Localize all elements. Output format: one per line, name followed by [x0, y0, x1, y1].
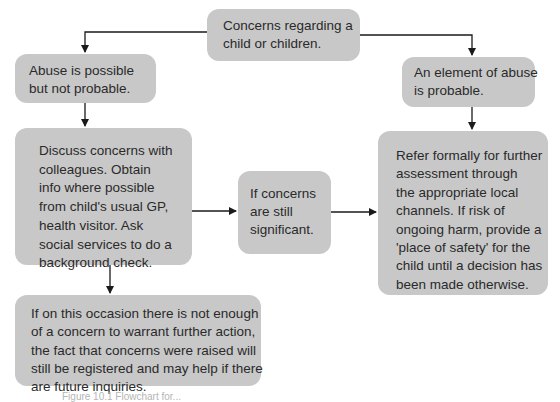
node-text-line: is probable. — [414, 82, 535, 100]
node-text-line: An element of abuse — [414, 64, 535, 82]
node-still-significant: If concerns are still significant. — [238, 171, 331, 254]
node-text-line: Abuse is possible — [29, 62, 156, 80]
node-not-enough-concern: If on this occasion there is not enough … — [15, 295, 261, 386]
node-text-line: the fact that concerns were raised will — [31, 342, 261, 360]
node-text-line: background check. — [39, 254, 192, 273]
node-text-line: child until a decision has — [396, 257, 548, 275]
node-text-line: Refer formally for further — [396, 147, 548, 165]
node-text-line: the appropriate local — [396, 184, 548, 202]
arrow-start-to-possible — [85, 32, 207, 52]
node-text-line: 'place of safety' for the — [396, 239, 548, 257]
node-text-line: info where possible — [39, 179, 192, 198]
node-text-line: but not probable. — [29, 80, 156, 98]
node-text-line: significant. — [250, 221, 331, 239]
node-text-line: ongoing harm, provide a — [396, 221, 548, 239]
node-refer-formally: Refer formally for further assessment th… — [378, 131, 548, 295]
node-text-line: social services to do a — [39, 236, 192, 255]
node-text-line: If on this occasion there is not enough — [31, 305, 261, 323]
node-text-line: If concerns — [250, 185, 331, 203]
figure-caption: Figure 10.1 Flowchart for... — [62, 391, 181, 402]
node-text-line: health visitor. Ask — [39, 217, 192, 236]
node-concerns-regarding-child: Concerns regarding a child or children. — [207, 9, 360, 61]
node-discuss-concerns: Discuss concerns with colleagues. Obtain… — [15, 128, 192, 265]
node-text-line: child or children. — [223, 35, 360, 53]
node-text-line: channels. If risk of — [396, 202, 548, 220]
node-abuse-possible: Abuse is possible but not probable. — [15, 54, 156, 103]
node-abuse-probable: An element of abuse is probable. — [402, 57, 535, 107]
arrow-start-to-probable — [355, 35, 472, 55]
node-text-line: been made otherwise. — [396, 276, 548, 294]
node-text-line: from child's usual GP, — [39, 198, 192, 217]
node-text-line: of a concern to warrant further action, — [31, 323, 261, 341]
node-text-line: Discuss concerns with — [39, 142, 192, 161]
node-text-line: Concerns regarding a — [223, 17, 360, 35]
node-text-line: assessment through — [396, 165, 548, 183]
node-text-line: colleagues. Obtain — [39, 161, 192, 180]
node-text-line: still be registered and may help if ther… — [31, 360, 261, 378]
node-text-line: are still — [250, 203, 331, 221]
